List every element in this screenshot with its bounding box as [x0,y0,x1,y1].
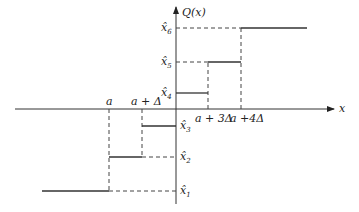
level-x6: x̂6 [161,21,172,36]
level-x1: x̂1 [180,184,191,199]
level-x4: x̂4 [161,86,172,101]
tick-a: a [106,95,113,108]
tick-a-plus-4delta: a +4Δ [230,112,264,125]
x-axis-label: x [339,102,346,115]
level-x2: x̂2 [180,150,191,165]
tick-a-plus-3delta: a + 3Δ [195,112,233,125]
level-x5: x̂5 [161,55,172,70]
quantizer-diagram: Q(x) x a a + Δ a + 3Δ a +4Δ x̂6 x̂5 x̂4 … [0,0,359,212]
level-x3: x̂3 [180,119,191,134]
y-axis-label: Q(x) [182,6,206,19]
tick-a-plus-delta: a + Δ [131,95,162,108]
